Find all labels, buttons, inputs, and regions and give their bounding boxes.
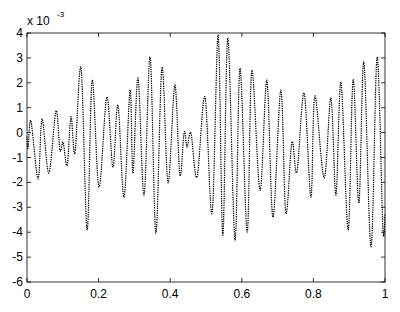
- x-tick-label: 0.8: [305, 287, 322, 301]
- chart-figure: 00.20.40.60.81 -6-5-4-3-2-101234 x 10 -3: [0, 0, 400, 312]
- x-tick-label: 0: [24, 287, 31, 301]
- y-tick-label: -5: [12, 250, 23, 264]
- y-tick-label: -2: [12, 175, 23, 189]
- y-tick-label: 4: [16, 26, 23, 40]
- figure-background: [0, 0, 400, 312]
- y-scale-multiplier: x 10: [27, 14, 50, 28]
- y-tick-label: -3: [12, 200, 23, 214]
- x-tick-label: 0.2: [90, 287, 107, 301]
- y-tick-label: -6: [12, 275, 23, 289]
- y-tick-label: -1: [12, 151, 23, 165]
- y-tick-label: 3: [16, 51, 23, 65]
- x-tick-label: 0.4: [162, 287, 179, 301]
- x-tick-label: 0.6: [233, 287, 250, 301]
- x-tick-label: 1: [382, 287, 389, 301]
- y-tick-label: 2: [16, 76, 23, 90]
- y-tick-label: -4: [12, 225, 23, 239]
- y-tick-label: 1: [16, 101, 23, 115]
- y-scale-exponent: -3: [57, 10, 65, 19]
- y-tick-label: 0: [16, 126, 23, 140]
